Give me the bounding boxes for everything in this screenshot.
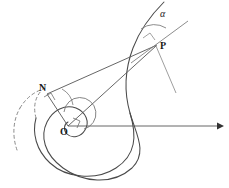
polar-axis (68, 123, 224, 130)
right-angle-mark-at-n (44, 93, 55, 100)
spiral-figure: O P N α (0, 0, 229, 188)
spiral-outer-loop (35, 113, 134, 176)
label-point-p: P (160, 41, 166, 51)
label-origin-o: O (60, 127, 68, 137)
segment-np (47, 45, 157, 94)
right-angle-mark-at-p (143, 33, 155, 40)
label-point-n: N (39, 83, 46, 93)
right-angle-mark-at-o (73, 118, 80, 128)
tangent-line-at-p (131, 21, 188, 93)
segment-on (47, 94, 68, 126)
spiral-dashed-continuation (14, 89, 43, 150)
arc-at-o (64, 98, 96, 129)
axis-arrowhead (217, 123, 224, 130)
label-angle-alpha: α (160, 9, 165, 19)
logarithmic-spiral-curve (44, 2, 164, 180)
arc-at-n (62, 89, 73, 105)
spiral-diagram-canvas (0, 0, 229, 188)
radius-vector-op (68, 46, 156, 126)
